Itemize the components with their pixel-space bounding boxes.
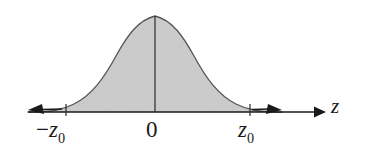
normal-curve-svg xyxy=(0,0,373,154)
normal-curve-figure: −z0 0 z0 z xyxy=(0,0,373,154)
paper-grain-texture xyxy=(20,8,295,118)
shaded-area-group xyxy=(20,8,295,118)
z-axis-arrowhead-icon xyxy=(314,107,326,118)
